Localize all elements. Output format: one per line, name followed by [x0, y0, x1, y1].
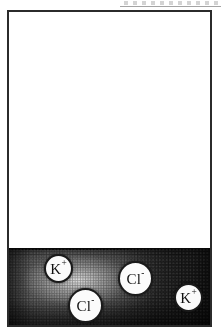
ion-label-chloride-middle: Cl- [127, 271, 145, 287]
ion-charge-text: + [191, 287, 196, 297]
ion-label-chloride-lower-left: Cl- [77, 298, 95, 314]
ion-species-text: Cl [77, 298, 92, 314]
ion-species-text: K [180, 290, 191, 306]
ion-potassium-left: K+ [44, 254, 73, 283]
figure-root: K+ Cl- Cl- K+ [0, 0, 221, 332]
ion-label-potassium-right: K+ [180, 290, 197, 306]
ion-charge-text: - [91, 295, 94, 305]
ion-species-text: K [50, 261, 61, 277]
ion-chloride-lower-left: Cl- [68, 288, 103, 323]
container-headspace [9, 12, 210, 248]
ion-species-text: Cl [127, 271, 142, 287]
scan-artifact-line [120, 6, 221, 7]
ion-chloride-middle: Cl- [118, 261, 153, 296]
ion-label-potassium-left: K+ [50, 261, 67, 277]
ion-charge-text: + [61, 258, 66, 268]
ion-charge-text: - [141, 268, 144, 278]
container-vessel [7, 10, 212, 327]
scan-artifact-speckle [124, 1, 221, 5]
ion-potassium-right: K+ [174, 283, 203, 312]
